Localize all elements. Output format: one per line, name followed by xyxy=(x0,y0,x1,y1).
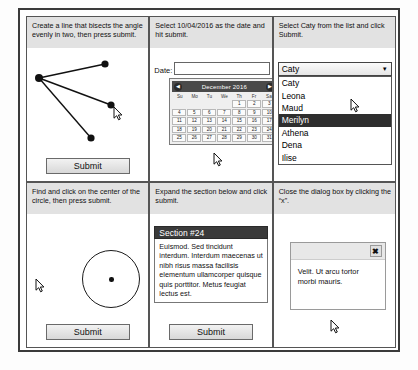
select-option[interactable]: Merilyn xyxy=(279,114,391,126)
calendar-day-name: We xyxy=(217,94,232,99)
calendar-header: ◀ December 2016 ▶ xyxy=(172,81,272,92)
panel-circle-center: Find and click on the center of the circ… xyxy=(26,182,149,348)
name-select-box[interactable]: Caty ▼ xyxy=(278,62,392,76)
angle-submit-button[interactable]: Submit xyxy=(46,158,130,174)
calendar-day-cell[interactable]: 26 xyxy=(187,134,201,142)
mouse-cursor-icon xyxy=(330,319,341,334)
select-option[interactable]: Maud xyxy=(279,102,391,114)
select-body: Caty ▼ CatyLeonaMaudMerilynAthenaDenaIli… xyxy=(274,48,395,181)
panel-angle-bisect: Create a line that bisects the angle eve… xyxy=(26,16,149,182)
angle-lines-svg xyxy=(27,48,149,158)
date-input[interactable] xyxy=(174,62,270,75)
calendar-day-cell[interactable]: 29 xyxy=(232,134,246,142)
calendar-day-cell[interactable]: 8 xyxy=(232,109,246,117)
calendar-day-names: SuMoTuWeThFrSa xyxy=(172,94,272,99)
calendar-day-cell[interactable]: 7 xyxy=(217,109,231,117)
circle-body[interactable]: Submit xyxy=(27,214,148,347)
calendar-day-name: Tu xyxy=(202,94,217,99)
select-option[interactable]: Dena xyxy=(279,139,391,151)
calendar-day-cell[interactable]: 23 xyxy=(247,126,261,134)
calendar-day-name: Fr xyxy=(247,94,262,99)
select-value: Caty xyxy=(282,64,299,74)
modal-dialog: ✖ Velit. Ut arcu tortor morbi mauris. xyxy=(290,242,386,310)
calendar-day-name: Sa xyxy=(261,94,272,99)
calendar-day-blank xyxy=(172,100,186,108)
calendar-day-cell[interactable]: 4 xyxy=(172,109,186,117)
panel-select-list: Select Caty from the list and click Subm… xyxy=(273,16,396,182)
calendar-day-cell[interactable]: 20 xyxy=(202,126,216,134)
calendar-day-cell[interactable]: 1 xyxy=(232,100,246,108)
datepicker-instruction: Select 10/04/2016 as the date and hit su… xyxy=(150,17,271,48)
calendar-day-blank xyxy=(187,100,201,108)
accordion-body: Section #24 Euismod. Sed tincidunt inter… xyxy=(150,214,271,347)
calendar-day-cell[interactable]: 5 xyxy=(187,109,201,117)
select-options-list[interactable]: CatyLeonaMaudMerilynAthenaDenaIlise xyxy=(278,76,392,165)
dialog-instruction: Close the dialog box by clicking the “x”… xyxy=(274,183,395,214)
calendar-day-cell[interactable]: 24 xyxy=(262,126,272,134)
calendar-day-cell[interactable]: 19 xyxy=(187,126,201,134)
select-option[interactable]: Athena xyxy=(279,127,391,139)
dialog-body: ✖ Velit. Ut arcu tortor morbi mauris. xyxy=(274,214,395,347)
select-option[interactable]: Ilise xyxy=(279,151,391,163)
calendar-day-name: Su xyxy=(172,94,187,99)
calendar-day-cell[interactable]: 30 xyxy=(247,134,261,142)
accordion-section-header[interactable]: Section #24 xyxy=(154,226,268,239)
calendar-day-name: Th xyxy=(232,94,247,99)
calendar-day-cell[interactable]: 6 xyxy=(202,109,216,117)
calendar-day-cell[interactable]: 11 xyxy=(172,117,186,125)
angle-instruction: Create a line that bisects the angle eve… xyxy=(27,17,148,48)
calendar-day-cell[interactable]: 15 xyxy=(232,117,246,125)
date-label: Date: xyxy=(154,66,172,75)
calendar-day-cell[interactable]: 18 xyxy=(172,126,186,134)
calendar-day-blank xyxy=(202,100,216,108)
angle-canvas[interactable]: Submit xyxy=(27,48,148,181)
accordion-instruction: Expand the section below and click submi… xyxy=(150,183,271,214)
select-option[interactable]: Leona xyxy=(279,89,391,101)
calendar-day-blank xyxy=(217,100,231,108)
select-option[interactable]: Caty xyxy=(279,77,391,89)
chevron-down-icon: ▼ xyxy=(382,66,388,72)
calendar-day-cell[interactable]: 27 xyxy=(202,134,216,142)
calendar-day-name: Mo xyxy=(187,94,202,99)
select-instruction: Select Caty from the list and click Subm… xyxy=(274,17,395,48)
mouse-cursor-icon xyxy=(213,152,224,167)
mouse-cursor-icon xyxy=(35,278,46,293)
calendar-day-cell[interactable]: 16 xyxy=(247,117,261,125)
circle-instruction: Find and click on the center of the circ… xyxy=(27,183,148,214)
accordion-submit-button[interactable]: Submit xyxy=(169,324,253,340)
panel-accordion: Expand the section below and click submi… xyxy=(149,182,272,348)
circle-center-dot[interactable] xyxy=(109,277,114,282)
calendar-day-cell[interactable]: 12 xyxy=(187,117,201,125)
dialog-message: Velit. Ut arcu tortor morbi mauris. xyxy=(291,260,385,287)
calendar-day-grid[interactable]: 1234567891011121314151617181920212223242… xyxy=(172,100,272,142)
panel-datepicker: Select 10/04/2016 as the date and hit su… xyxy=(149,16,272,182)
calendar-day-cell[interactable]: 21 xyxy=(217,126,231,134)
calendar-day-cell[interactable]: 22 xyxy=(232,126,246,134)
task-grid: Create a line that bisects the angle eve… xyxy=(26,16,396,348)
calendar-day-cell[interactable]: 31 xyxy=(262,134,272,142)
task-grid-frame: Create a line that bisects the angle eve… xyxy=(18,8,400,352)
calendar-month-title: December 2016 xyxy=(202,84,247,90)
accordion-section-content: Euismod. Sed tincidunt interdum. Interdu… xyxy=(154,239,268,303)
calendar-day-cell[interactable]: 13 xyxy=(202,117,216,125)
calendar-day-cell[interactable]: 2 xyxy=(247,100,261,108)
calendar-day-cell[interactable]: 28 xyxy=(217,134,231,142)
calendar-day-cell[interactable]: 14 xyxy=(217,117,231,125)
calendar-prev-icon[interactable]: ◀ xyxy=(174,83,182,91)
calendar-day-cell[interactable]: 10 xyxy=(262,109,272,117)
calendar-widget[interactable]: ◀ December 2016 ▶ SuMoTuWeThFrSa 1234567… xyxy=(169,78,272,145)
close-icon[interactable]: ✖ xyxy=(370,245,382,257)
panel-close-dialog: Close the dialog box by clicking the “x”… xyxy=(273,182,396,348)
calendar-day-cell[interactable]: 9 xyxy=(247,109,261,117)
calendar-day-cell[interactable]: 25 xyxy=(172,134,186,142)
calendar-day-cell[interactable]: 17 xyxy=(262,117,272,125)
circle-submit-button[interactable]: Submit xyxy=(46,324,130,340)
dialog-titlebar: ✖ xyxy=(291,243,385,260)
screenshot-root: Create a line that bisects the angle eve… xyxy=(0,0,418,370)
datepicker-body: Date: ◀ December 2016 ▶ SuMoTuWeThFrSa 1… xyxy=(150,48,271,181)
calendar-day-cell[interactable]: 3 xyxy=(262,100,272,108)
